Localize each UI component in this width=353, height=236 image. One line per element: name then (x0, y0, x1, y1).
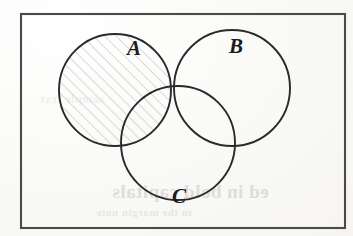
set-label-c: C (172, 186, 186, 207)
venn-diagram-figure: ed in bold capitals in the margin note s… (0, 0, 353, 236)
set-circle-c (121, 86, 235, 200)
set-label-b: B (229, 36, 243, 57)
set-label-a: A (127, 38, 141, 59)
